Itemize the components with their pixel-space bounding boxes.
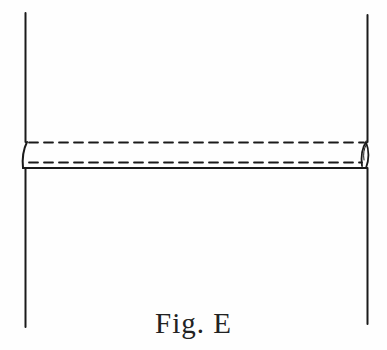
figure-caption: Fig. E	[0, 307, 387, 340]
figure-canvas: Fig. E	[0, 0, 387, 350]
band-right-end	[362, 142, 369, 168]
band-left-end	[23, 142, 27, 168]
fabric-diagram	[0, 0, 387, 350]
